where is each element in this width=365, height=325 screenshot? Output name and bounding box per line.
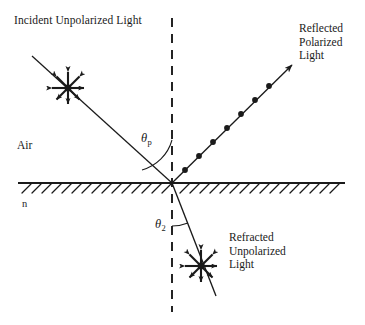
incident-light-label: Incident Unpolarized Light: [14, 14, 142, 28]
reflected-light-label: ReflectedPolarizedLight: [299, 22, 343, 63]
refracted-ray: [172, 183, 216, 296]
theta-p-label: θp: [141, 131, 151, 146]
air-region-label: Air: [17, 139, 32, 153]
refracted-light-label-line1: Refracted: [229, 231, 274, 243]
incident-unpolarized-starburst: [52, 72, 84, 104]
incident-ray: [32, 56, 172, 183]
reflected-ray: [172, 65, 292, 183]
refractive-index-label: n: [22, 198, 27, 210]
theta-2-label: θ2: [155, 217, 165, 232]
refracted-unpolarized-starburst: [185, 250, 217, 282]
refracted-light-label-line2: Unpolarized: [229, 245, 286, 257]
theta-p-subscript: p: [148, 137, 152, 147]
interface-hatching: [22, 184, 339, 193]
refracted-light-label-line3: Light: [229, 258, 254, 270]
theta-2-arc: [172, 223, 188, 226]
theta-2-symbol: θ: [155, 217, 161, 231]
reflected-light-label-line1: Reflected: [299, 22, 343, 34]
reflected-light-label-line2: Polarized: [299, 36, 342, 48]
reflected-light-label-line3: Light: [299, 49, 324, 61]
theta-2-subscript: 2: [162, 223, 166, 233]
theta-p-symbol: θ: [141, 131, 147, 145]
refracted-light-label: RefractedUnpolarizedLight: [229, 231, 286, 272]
